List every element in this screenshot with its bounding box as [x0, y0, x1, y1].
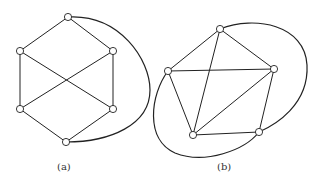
graph-b	[153, 23, 307, 157]
graph-node	[109, 47, 116, 54]
curved-edge	[66, 17, 150, 142]
graph-edge	[20, 17, 68, 51]
graph-edge	[168, 71, 193, 135]
graph-node	[62, 138, 69, 145]
graph-node	[216, 25, 223, 32]
graph-edge	[193, 69, 274, 135]
graph-node	[109, 105, 116, 112]
graph-node	[164, 67, 171, 74]
graph-node	[16, 105, 23, 112]
graph-edge	[193, 132, 259, 135]
graph-edge	[193, 29, 220, 135]
diagram-canvas	[0, 0, 323, 186]
caption-a: (a)	[57, 161, 71, 172]
graph-edge	[68, 17, 113, 51]
graph-edge	[168, 69, 274, 71]
graph-node	[189, 131, 196, 138]
graph-node	[16, 47, 23, 54]
graph-node	[270, 65, 277, 72]
graph-edge	[168, 29, 220, 71]
graph-edge	[220, 29, 274, 69]
graph-a	[16, 13, 150, 145]
graph-edge	[259, 69, 274, 132]
caption-b: (b)	[217, 161, 231, 172]
graph-node	[255, 128, 262, 135]
graph-node	[64, 13, 71, 20]
graph-edge	[20, 109, 66, 142]
